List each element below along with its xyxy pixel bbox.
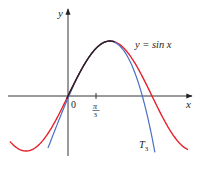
tick-label-denominator: 3 <box>94 111 98 119</box>
tick-label-pi-over-3: π 3 <box>93 102 100 119</box>
sin-curve-label: y = sin x <box>134 39 172 50</box>
sin-label-text: y = sin x <box>134 39 172 50</box>
y-axis-label: y <box>57 7 63 19</box>
taylor-t3-curve <box>48 41 155 152</box>
overlap-curve-segment <box>67 41 115 99</box>
origin-label: 0 <box>71 99 76 110</box>
tick-label-numerator: π <box>93 102 98 111</box>
t3-curve-label: T3 <box>139 139 149 153</box>
x-axis-label: x <box>185 98 191 110</box>
taylor-sine-chart: y x 0 π 3 y = sin x T3 <box>0 0 207 172</box>
t3-subscript: 3 <box>145 145 149 153</box>
